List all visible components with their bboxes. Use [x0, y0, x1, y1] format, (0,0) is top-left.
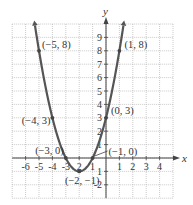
- curve-arrow-icon: [32, 21, 38, 26]
- tick-labels: -6-5-4-3211234-21123456789: [21, 32, 162, 190]
- x-tick-label: -4: [48, 161, 56, 172]
- point-label: (−5, 8): [42, 39, 71, 51]
- x-tick-label: 1: [117, 161, 122, 172]
- y-tick-label: 8: [97, 45, 102, 56]
- data-point: [64, 156, 68, 160]
- y-tick-label: 4: [97, 99, 102, 110]
- data-point: [104, 116, 108, 120]
- x-axis-arrow-icon: [173, 156, 180, 161]
- data-point: [91, 156, 95, 160]
- point-label: (1, 8): [124, 39, 147, 51]
- x-axis-label: x: [181, 152, 187, 164]
- y-tick-label: 5: [97, 86, 102, 97]
- x-tick-label: 3: [144, 161, 149, 172]
- x-tick-label: 4: [157, 161, 162, 172]
- x-tick-label: -5: [35, 161, 43, 172]
- point-label: (−1, 0): [109, 146, 138, 158]
- y-tick-label: 7: [97, 59, 102, 70]
- curve-arrow-icon: [121, 21, 127, 26]
- data-point: [37, 49, 41, 53]
- y-tick-label: 9: [97, 32, 102, 43]
- y-tick-label: 6: [97, 72, 102, 83]
- y-tick-label: 3: [97, 112, 102, 123]
- point-label: (−4, 3): [22, 115, 51, 127]
- data-point: [118, 49, 122, 53]
- point-label: (0, 3): [111, 105, 134, 117]
- x-tick-label: 2: [130, 161, 135, 172]
- data-point: [77, 170, 81, 174]
- point-label: (−2, −1): [65, 175, 100, 187]
- y-axis-label: y: [102, 5, 108, 17]
- x-tick-label: -6: [21, 161, 29, 172]
- data-point: [51, 116, 55, 120]
- parabola-graph: -6-5-4-3211234-21123456789 (−5, 8)(1, 8)…: [0, 0, 193, 205]
- curve-arrows: [32, 21, 126, 26]
- grid: [12, 24, 173, 198]
- y-axis-arrow-icon: [104, 17, 109, 24]
- point-label: (−3, 0): [35, 145, 64, 157]
